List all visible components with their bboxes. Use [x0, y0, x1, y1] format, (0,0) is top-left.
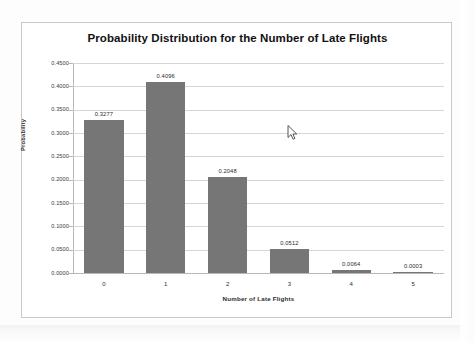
bar — [270, 249, 309, 273]
y-axis-tick-label: 0.3000 — [29, 130, 69, 136]
x-axis-tick-label: 4 — [320, 281, 382, 287]
bar-value-label: 0.2048 — [197, 168, 259, 174]
chart-title: Probability Distribution for the Number … — [22, 32, 453, 44]
gridline — [73, 86, 444, 87]
y-axis-tick-label: 0.2000 — [29, 176, 69, 182]
mouse-pointer-icon — [287, 125, 299, 141]
y-axis-tick-label: 0.4500 — [29, 60, 69, 66]
y-axis-title: Probability — [20, 119, 26, 151]
y-axis-tick-label: 0.0500 — [29, 246, 69, 252]
scan-shadow-right — [460, 0, 474, 343]
gridline — [73, 133, 444, 134]
bar-value-label: 0.0003 — [382, 263, 444, 269]
y-axis-tick-label: 0.3500 — [29, 106, 69, 112]
scan-shadow-bottom — [0, 325, 474, 343]
bar — [208, 177, 247, 273]
gridline — [73, 226, 444, 227]
gridline — [73, 273, 444, 274]
gridline — [73, 63, 444, 64]
x-axis-tick-label: 3 — [259, 281, 321, 287]
bar — [393, 272, 432, 273]
y-axis-tick-label: 0.0000 — [29, 270, 69, 276]
x-axis-tick-label: 5 — [382, 281, 444, 287]
gridline — [73, 203, 444, 204]
bar — [146, 82, 185, 273]
x-axis-title: Number of Late Flights — [73, 295, 444, 302]
x-axis-tick-label: 0 — [73, 281, 135, 287]
gridline — [73, 180, 444, 181]
y-axis-tick-label: 0.4000 — [29, 83, 69, 89]
bar — [332, 270, 371, 273]
x-axis-tick-label: 2 — [197, 281, 259, 287]
bar-value-label: 0.4096 — [135, 73, 197, 79]
bar — [84, 120, 123, 273]
y-axis-tick-label: 0.2500 — [29, 153, 69, 159]
gridline — [73, 250, 444, 251]
y-axis-tick-label: 0.1000 — [29, 223, 69, 229]
bar-value-label: 0.0064 — [320, 261, 382, 267]
x-axis-tick-label: 1 — [135, 281, 197, 287]
y-axis-tick-label: 0.1500 — [29, 200, 69, 206]
bar-value-label: 0.0512 — [259, 240, 321, 246]
gridline — [73, 156, 444, 157]
chart-container: Probability Distribution for the Number … — [21, 22, 452, 318]
bar-value-label: 0.3277 — [73, 111, 135, 117]
